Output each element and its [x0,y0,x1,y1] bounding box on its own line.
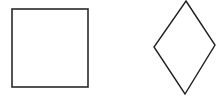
diamond-shape [154,1,215,94]
diagram-canvas [0,0,223,99]
shapes-svg [0,0,223,99]
square-shape [12,9,88,87]
